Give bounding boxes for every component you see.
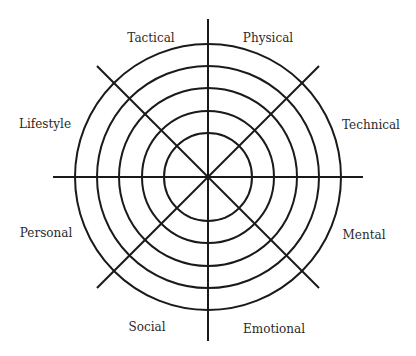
wheel-diagram	[0, 0, 416, 356]
label-emotional: Emotional	[243, 322, 305, 336]
spokes	[53, 19, 363, 341]
label-physical: Physical	[243, 31, 293, 45]
label-social: Social	[129, 320, 166, 334]
label-lifestyle: Lifestyle	[19, 117, 71, 131]
label-tactical: Tactical	[127, 31, 174, 45]
label-technical: Technical	[342, 118, 400, 132]
label-mental: Mental	[343, 228, 386, 242]
label-personal: Personal	[20, 226, 72, 240]
